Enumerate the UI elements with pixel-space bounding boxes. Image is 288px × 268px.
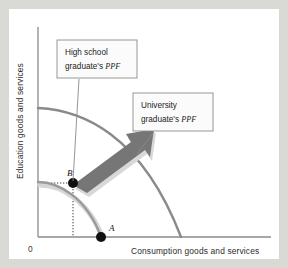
shift-arrow [73, 129, 156, 197]
ppf-chart: Education goods and services Consumption… [9, 9, 279, 259]
callout-high-school-line2: graduate's PPF [65, 62, 121, 71]
y-axis-title: Education goods and services [15, 63, 25, 179]
callout-university-line2-prefix: graduate's [141, 115, 181, 124]
callout-high-school-box [57, 40, 137, 78]
origin-label: 0 [28, 244, 33, 254]
callout-university-ppf-abbrev: PPF [180, 115, 197, 124]
figure-root: Education goods and services Consumption… [0, 0, 288, 268]
callout-university-line2: graduate's PPF [141, 115, 197, 124]
high-school-callout-leader [73, 79, 79, 181]
callout-university-line1: University [141, 101, 178, 110]
x-axis-title: Consumption goods and services [131, 246, 259, 256]
callout-university-ppf[interactable]: University graduate's PPF [133, 93, 213, 131]
point-b-label: B [67, 168, 73, 178]
point-a-marker [96, 232, 106, 242]
callout-high-school-ppf[interactable]: High school graduate's PPF [57, 40, 137, 78]
shift-arrow-body [73, 129, 154, 193]
callout-high-school-ppf-abbrev: PPF [104, 62, 121, 71]
callout-high-school-line1: High school [65, 48, 108, 57]
callout-university-box [133, 93, 213, 131]
plot-card: Education goods and services Consumption… [9, 9, 279, 259]
point-b: B [67, 168, 78, 188]
point-a-label: A [108, 223, 115, 233]
callout-high-school-line2-prefix: graduate's [65, 62, 105, 71]
